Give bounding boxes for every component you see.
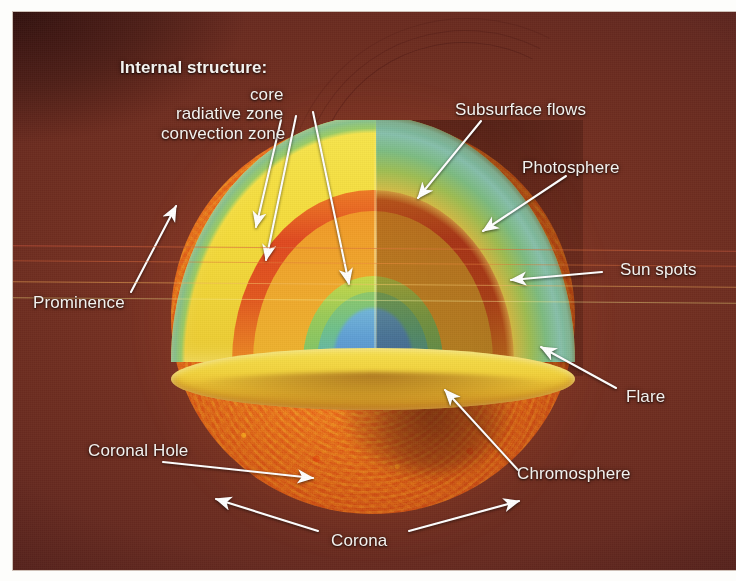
cutaway-face-shadow [171,372,575,412]
sun [163,120,583,520]
label-subsurface-flows: Subsurface flows [455,100,586,120]
label-photosphere: Photosphere [522,158,620,178]
figure-page: Internal structure: core radiative zone … [0,0,736,581]
label-core: core [250,85,283,105]
label-sun-spots: Sun spots [620,260,697,280]
label-convection-zone: convection zone [161,124,285,144]
label-corona: Corona [331,531,387,551]
internal-structure-title: Internal structure: [120,58,267,78]
sun-diagram-photograph: Internal structure: core radiative zone … [13,12,736,570]
cutaway-interior [171,120,575,376]
label-coronal-hole: Coronal Hole [88,441,188,461]
label-chromosphere: Chromosphere [517,464,631,484]
cutaway-edge-highlight [374,120,377,366]
label-radiative-zone: radiative zone [176,104,283,124]
label-flare: Flare [626,387,665,407]
label-prominence: Prominence [33,293,125,313]
